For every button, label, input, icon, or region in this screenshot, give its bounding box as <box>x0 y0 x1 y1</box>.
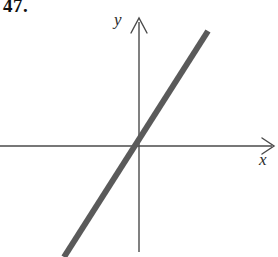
x-axis-label: x <box>259 150 267 170</box>
math-figure: 47. y x <box>0 0 278 257</box>
y-axis-label: y <box>114 10 122 30</box>
plotted-line-series <box>64 31 208 257</box>
coordinate-plane-graphic <box>0 0 278 257</box>
